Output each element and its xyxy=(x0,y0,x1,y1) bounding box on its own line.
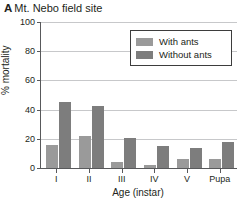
y-tick-label: 20 xyxy=(25,134,35,143)
legend-swatch xyxy=(136,51,153,59)
legend-item: With ants xyxy=(136,35,226,48)
y-tick-label: 100 xyxy=(20,18,35,27)
x-tick-label: Pupa xyxy=(209,174,230,184)
page-title: AMt. Nebo field site xyxy=(4,2,102,15)
bar xyxy=(92,106,104,168)
x-tick-label: III xyxy=(118,174,126,184)
legend-item: Without ants xyxy=(136,48,226,61)
bar xyxy=(79,136,91,168)
legend-label: Without ants xyxy=(159,49,212,60)
bar xyxy=(157,146,169,168)
bar-group xyxy=(41,22,74,168)
bar xyxy=(190,148,202,168)
bar xyxy=(222,142,234,168)
bar-group xyxy=(74,22,107,168)
legend: With antsWithout ants xyxy=(130,30,232,66)
legend-label: With ants xyxy=(159,36,199,47)
bar xyxy=(59,102,71,168)
x-tick-label: I xyxy=(55,174,58,184)
bar xyxy=(209,159,221,168)
y-tick-label: 80 xyxy=(25,47,35,56)
legend-swatch xyxy=(136,38,153,46)
bar xyxy=(111,162,123,168)
panel-letter: A xyxy=(4,2,12,14)
bar xyxy=(46,145,58,168)
figure-panel: AMt. Nebo field site % mortality 0204060… xyxy=(0,0,246,204)
x-tick-mark xyxy=(220,169,221,173)
panel-title-text: Mt. Nebo field site xyxy=(14,2,102,14)
x-tick-mark xyxy=(89,169,90,173)
x-axis-title: Age (instar) xyxy=(40,187,236,198)
bar xyxy=(144,165,156,168)
x-axis: IIIIIIIVVPupa xyxy=(40,169,236,187)
x-tick-label: V xyxy=(184,174,190,184)
x-tick-mark xyxy=(56,169,57,173)
bar xyxy=(177,159,189,168)
y-axis-title: % mortality xyxy=(1,46,11,95)
x-tick-mark xyxy=(154,169,155,173)
x-tick-label: II xyxy=(86,174,91,184)
x-tick-mark xyxy=(122,169,123,173)
bar xyxy=(124,138,136,168)
y-tick-label: 60 xyxy=(25,76,35,85)
y-tick-label: 40 xyxy=(25,105,35,114)
x-tick-label: IV xyxy=(150,174,159,184)
y-tick-label: 0 xyxy=(30,164,35,173)
x-tick-mark xyxy=(187,169,188,173)
